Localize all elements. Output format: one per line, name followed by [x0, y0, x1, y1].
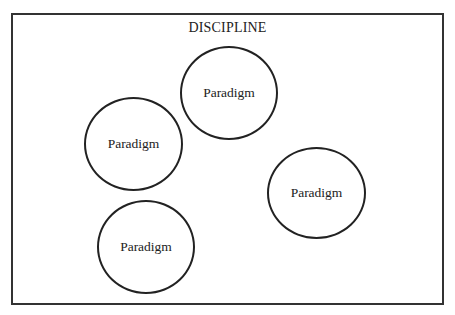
paradigm-label: Paradigm: [108, 136, 160, 152]
paradigm-node-right: Paradigm: [267, 147, 366, 239]
discipline-label: DISCIPLINE: [0, 20, 455, 36]
paradigm-label: Paradigm: [120, 239, 172, 255]
paradigm-label: Paradigm: [203, 85, 255, 101]
paradigm-label: Paradigm: [291, 185, 343, 201]
paradigm-node-left: Paradigm: [84, 97, 183, 191]
diagram-canvas: DISCIPLINE Paradigm Paradigm Paradigm Pa…: [0, 0, 455, 315]
paradigm-node-bottom: Paradigm: [97, 200, 195, 294]
paradigm-node-top: Paradigm: [180, 46, 278, 140]
